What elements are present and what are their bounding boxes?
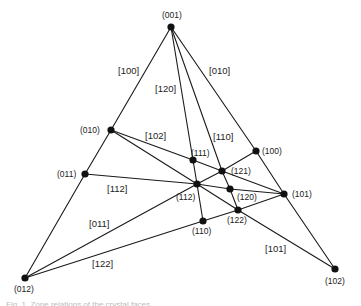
- zone-label: [112]: [107, 183, 127, 194]
- face-pole-dot: [199, 217, 206, 224]
- face-label: (011): [57, 169, 76, 179]
- face-pole-dot: [81, 170, 88, 177]
- zone-label: [011]: [89, 218, 109, 229]
- face-pole-dot: [331, 265, 338, 272]
- face-label: (110): [192, 226, 211, 236]
- face-pole-dot: [21, 274, 28, 281]
- zone-line: [25, 27, 171, 278]
- face-label: (112): [176, 192, 195, 202]
- face-pole-dot: [252, 147, 259, 154]
- face-label: (100): [262, 146, 282, 156]
- zone-label: [100]: [118, 65, 139, 76]
- zone-label: [120]: [155, 83, 176, 94]
- zone-label: [110]: [213, 131, 233, 142]
- figure-caption: Fig. 1. Zone relations of the crystal fa…: [6, 300, 356, 306]
- face-label: (122): [227, 215, 247, 225]
- face-pole-dot: [107, 126, 114, 133]
- zone-label: [102]: [145, 130, 166, 141]
- face-label: (120): [237, 192, 257, 202]
- face-label: (121): [231, 166, 251, 176]
- face-pole-dot: [280, 190, 287, 197]
- face-pole-dot: [234, 206, 241, 213]
- zone-lines: [25, 27, 335, 278]
- face-label: (010): [80, 125, 100, 135]
- face-label: (101): [292, 189, 312, 199]
- face-pole-dot: [193, 180, 200, 187]
- face-label: (102): [325, 276, 345, 286]
- zone-label: [010]: [209, 65, 230, 76]
- zone-diagram: [100][010][120][110][102][101][112][011]…: [0, 0, 361, 306]
- face-label: (111): [191, 148, 210, 158]
- face-label: (012): [14, 284, 34, 294]
- face-pole-dot: [218, 167, 225, 174]
- zone-labels: [100][010][120][110][102][101][112][011]…: [89, 65, 286, 269]
- zone-line: [111, 130, 335, 269]
- face-pole-dot: [167, 23, 174, 30]
- zone-label: [122]: [92, 258, 113, 269]
- face-label: (001): [162, 10, 182, 20]
- face-pole-dot: [226, 185, 233, 192]
- zone-label: [101]: [265, 243, 286, 254]
